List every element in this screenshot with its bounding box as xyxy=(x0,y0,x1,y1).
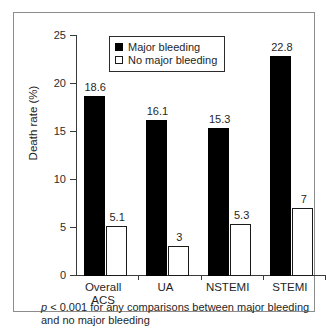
chart-legend: Major bleeding No major bleeding xyxy=(109,36,225,72)
bar-value-label: 18.6 xyxy=(81,82,110,93)
figure-frame: Death rate (%) 0510152025 18.65.116.1315… xyxy=(13,12,315,312)
x-tick-mark xyxy=(138,275,139,280)
x-tick-mark xyxy=(201,275,202,280)
legend-label-no-major-bleeding: No major bleeding xyxy=(128,55,217,66)
y-tick-label: 25 xyxy=(26,30,66,41)
x-category-label: UA xyxy=(134,281,196,294)
y-tick-label: 0 xyxy=(26,270,66,281)
legend-swatch-open-icon xyxy=(115,56,123,64)
footnote-note: p < 0.001 for any comparisons between ma… xyxy=(41,301,313,327)
y-tick-label: 10 xyxy=(26,174,66,185)
bar-major-bleeding xyxy=(208,128,229,276)
y-tick-mark xyxy=(70,131,76,132)
y-tick-mark xyxy=(70,179,76,180)
x-category-label: NSTEMI xyxy=(197,281,259,294)
bar-no-major-bleeding xyxy=(230,224,251,276)
bar-value-label: 22.8 xyxy=(267,42,296,53)
x-tick-mark xyxy=(263,275,264,280)
y-tick-label: 20 xyxy=(26,78,66,89)
y-tick-mark xyxy=(70,275,76,276)
y-tick-mark xyxy=(70,227,76,228)
bar-major-bleeding xyxy=(146,120,167,276)
y-tick-label: 5 xyxy=(26,222,66,233)
footnote-text: < 0.001 for any comparisons between majo… xyxy=(41,301,309,326)
legend-label-major-bleeding: Major bleeding xyxy=(128,42,200,53)
bar-major-bleeding xyxy=(84,96,105,276)
bar-value-label: 3 xyxy=(165,232,194,243)
y-tick-label: 15 xyxy=(26,126,66,137)
bar-value-label: 7 xyxy=(289,194,318,205)
figure-container: Death rate (%) 0510152025 18.65.116.1315… xyxy=(0,0,326,331)
y-tick-mark xyxy=(70,35,76,36)
bar-value-label: 16.1 xyxy=(143,106,172,117)
bar-no-major-bleeding xyxy=(292,208,313,276)
bar-value-label: 5.1 xyxy=(103,212,132,223)
legend-swatch-filled-icon xyxy=(115,43,123,51)
bar-no-major-bleeding xyxy=(106,226,127,276)
x-category-label: STEMI xyxy=(259,281,321,294)
y-tick-mark xyxy=(70,83,76,84)
bar-no-major-bleeding xyxy=(168,246,189,276)
bar-value-label: 5.3 xyxy=(227,210,256,221)
bar-value-label: 15.3 xyxy=(205,114,234,125)
legend-item-no-major-bleeding: No major bleeding xyxy=(115,54,217,66)
bar-major-bleeding xyxy=(270,56,291,276)
legend-item-major-bleeding: Major bleeding xyxy=(115,41,217,53)
y-axis-line xyxy=(76,35,77,276)
